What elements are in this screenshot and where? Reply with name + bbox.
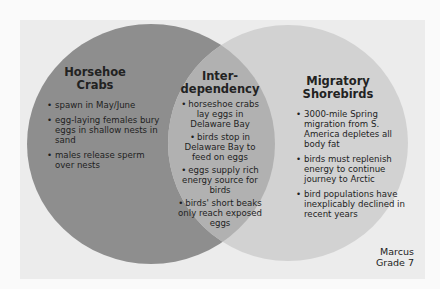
list-item: spawn in May/June (55, 100, 160, 110)
middle-title-line2: dependency (178, 83, 262, 96)
middle-section: Inter- dependency horseshoe crabs lay eg… (178, 70, 262, 228)
author-grade: Grade 7 (370, 257, 414, 268)
left-section: Horsehoe Crabs spawn in May/June egg-lay… (45, 66, 160, 170)
list-item: bird populations have inexplicably decli… (304, 189, 410, 219)
right-section: Migratory Shorebirds 3000-mile Spring mi… (290, 75, 410, 219)
list-item: eggs supply rich energy source for birds (178, 165, 262, 195)
right-title-line2: Shorebirds (293, 88, 383, 101)
list-item: birds stop in Delaware Bay to feed on eg… (178, 132, 262, 162)
author-signature: Marcus Grade 7 (370, 246, 414, 268)
list-item: males release sperm over nests (55, 150, 160, 170)
author-name: Marcus (370, 246, 414, 257)
right-list: 3000-mile Spring migration from S. Ameri… (290, 109, 410, 219)
list-item: 3000-mile Spring migration from S. Ameri… (304, 109, 410, 149)
list-item: egg-laying females bury eggs in shallow … (55, 115, 160, 145)
left-list: spawn in May/June egg-laying females bur… (45, 100, 160, 170)
list-item: birds must replenish energy to continue … (304, 154, 410, 184)
right-title: Migratory Shorebirds (293, 75, 383, 101)
list-item: birds' short beaks only reach exposed eg… (178, 198, 262, 228)
middle-title: Inter- dependency (178, 70, 262, 96)
list-item: horseshoe crabs lay eggs in Delaware Bay (178, 99, 262, 129)
middle-list: horseshoe crabs lay eggs in Delaware Bay… (178, 99, 262, 228)
left-title-line2: Crabs (45, 79, 145, 92)
left-title: Horsehoe Crabs (45, 66, 145, 92)
